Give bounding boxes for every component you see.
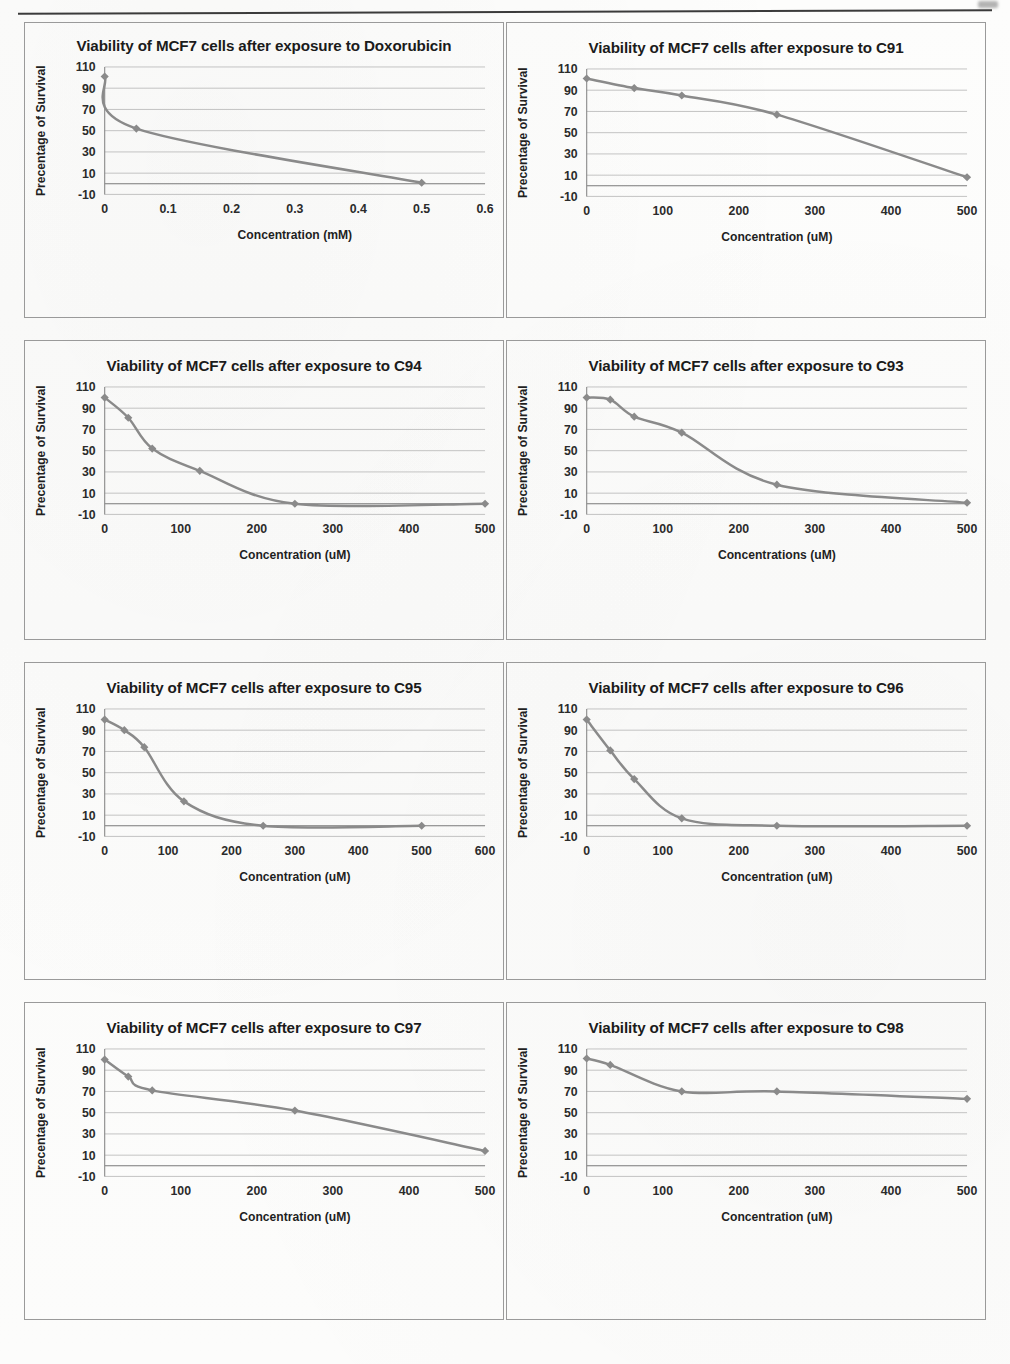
y-tick-label: -10 <box>560 830 578 844</box>
x-axis-title: Concentration (mM) <box>238 229 353 243</box>
plot-area: -1010305070901100100200300400500Concentr… <box>513 377 979 566</box>
data-point-marker <box>773 1088 781 1096</box>
series-line <box>103 77 422 183</box>
chart-title: Viability of MCF7 cells after exposure t… <box>45 36 483 55</box>
plot-area: -10103050709011000.10.20.30.40.50.6Conce… <box>31 57 497 246</box>
y-axis-title: Precentage of Survival <box>516 1048 530 1179</box>
data-point-marker <box>418 179 426 187</box>
data-point-marker <box>630 84 638 92</box>
x-tick-label: 300 <box>285 845 306 859</box>
chart-svg-c96: -1010305070901100100200300400500Concentr… <box>513 699 979 888</box>
y-tick-label: 70 <box>564 105 578 119</box>
x-tick-label: 500 <box>475 1185 496 1199</box>
x-tick-label: 400 <box>881 1185 902 1199</box>
series-line <box>587 79 967 178</box>
y-tick-label: 110 <box>558 703 578 717</box>
y-tick-label: 10 <box>82 167 96 181</box>
x-axis-title: Concentration (uM) <box>721 871 832 885</box>
chart-svg-c98: -1010305070901100100200300400500Concentr… <box>513 1039 979 1228</box>
data-point-marker <box>963 499 971 507</box>
x-tick-label: 500 <box>957 205 978 219</box>
y-tick-label: 10 <box>564 809 578 823</box>
y-tick-label: -10 <box>78 508 96 522</box>
y-tick-label: 110 <box>558 63 578 77</box>
y-tick-label: 10 <box>564 169 578 183</box>
chart-title: Viability of MCF7 cells after exposure t… <box>45 356 483 375</box>
x-tick-label: 500 <box>475 523 496 537</box>
chart-panel-c93: Viability of MCF7 cells after exposure t… <box>506 340 986 640</box>
x-tick-label: 0 <box>101 523 108 537</box>
chart-svg-c94: -1010305070901100100200300400500Concentr… <box>31 377 497 566</box>
series-line <box>105 398 485 507</box>
x-tick-label: 200 <box>729 1185 750 1199</box>
data-point-marker <box>963 1095 971 1103</box>
x-tick-label: 600 <box>475 845 496 859</box>
data-point-marker <box>418 822 426 830</box>
plot-area: -1010305070901100100200300400500Concentr… <box>31 377 497 566</box>
y-tick-label: 30 <box>82 1128 96 1142</box>
y-tick-label: 70 <box>82 103 96 117</box>
chart-svg-c97: -1010305070901100100200300400500Concentr… <box>31 1039 497 1228</box>
data-point-marker <box>481 1147 489 1155</box>
y-tick-label: 30 <box>82 466 96 480</box>
y-tick-label: 70 <box>82 745 96 759</box>
y-tick-label: 50 <box>82 445 96 459</box>
chart-grid: Viability of MCF7 cells after exposure t… <box>0 22 1010 1342</box>
y-tick-label: 10 <box>82 809 96 823</box>
x-axis-title: Concentration (uM) <box>239 1211 350 1225</box>
x-tick-label: 0 <box>101 845 108 859</box>
x-tick-label: 400 <box>881 205 902 219</box>
x-tick-label: 100 <box>652 523 673 537</box>
chart-panel-c94: Viability of MCF7 cells after exposure t… <box>24 340 504 640</box>
x-axis-title: Concentration (uM) <box>239 549 350 563</box>
y-tick-label: 110 <box>76 61 96 75</box>
y-tick-label: -10 <box>78 830 96 844</box>
y-tick-label: -10 <box>560 1170 578 1184</box>
x-tick-label: 400 <box>399 1185 420 1199</box>
y-tick-label: 90 <box>82 1064 96 1078</box>
y-tick-label: -10 <box>78 188 96 202</box>
plot-area: -1010305070901100100200300400500Concentr… <box>513 699 979 888</box>
x-tick-label: 400 <box>881 523 902 537</box>
x-tick-label: 100 <box>158 845 179 859</box>
scan-artifact-smudge <box>978 1 998 8</box>
x-tick-label: 500 <box>411 845 432 859</box>
y-axis-title: Precentage of Survival <box>34 66 48 197</box>
chart-row-3: Viability of MCF7 cells after exposure t… <box>0 662 1010 980</box>
y-tick-label: 30 <box>564 1128 578 1142</box>
y-axis-title: Precentage of Survival <box>34 386 48 517</box>
plot-area: -1010305070901100100200300400500Concentr… <box>31 1039 497 1228</box>
data-point-marker <box>773 481 781 489</box>
x-tick-label: 0 <box>583 523 590 537</box>
chart-svg-c95: -1010305070901100100200300400500600Conce… <box>31 699 497 888</box>
chart-panel-doxorubicin: Viability of MCF7 cells after exposure t… <box>24 22 504 318</box>
x-tick-label: 300 <box>805 205 826 219</box>
x-tick-label: 100 <box>652 1185 673 1199</box>
x-tick-label: 200 <box>247 523 268 537</box>
data-point-marker <box>583 1055 591 1063</box>
y-tick-label: 30 <box>564 466 578 480</box>
x-tick-label: 300 <box>323 1185 344 1199</box>
chart-title: Viability of MCF7 cells after exposure t… <box>527 356 965 375</box>
y-tick-label: 90 <box>564 724 578 738</box>
y-tick-label: -10 <box>560 508 578 522</box>
x-tick-label: 200 <box>221 845 242 859</box>
y-tick-label: 10 <box>82 1149 96 1163</box>
x-tick-label: 0.3 <box>286 203 303 217</box>
y-tick-label: 110 <box>558 381 578 395</box>
y-tick-label: 50 <box>564 127 578 141</box>
chart-title: Viability of MCF7 cells after exposure t… <box>45 1018 483 1037</box>
chart-panel-c95: Viability of MCF7 cells after exposure t… <box>24 662 504 980</box>
x-tick-label: 0 <box>583 205 590 219</box>
x-tick-label: 400 <box>348 845 369 859</box>
data-point-marker <box>101 716 109 724</box>
x-tick-label: 0 <box>101 203 108 217</box>
x-tick-label: 200 <box>729 205 750 219</box>
x-axis-title: Concentrations (uM) <box>718 549 836 563</box>
chart-svg-doxorubicin: -10103050709011000.10.20.30.40.50.6Conce… <box>31 57 497 246</box>
y-axis-title: Precentage of Survival <box>516 386 530 517</box>
y-tick-label: 30 <box>82 146 96 160</box>
y-tick-label: 50 <box>564 445 578 459</box>
data-point-marker <box>196 467 204 475</box>
y-axis-title: Precentage of Survival <box>516 68 530 199</box>
